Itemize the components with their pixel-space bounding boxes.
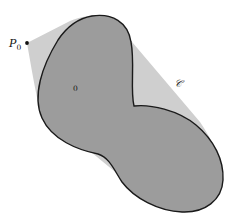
point-p0	[25, 41, 29, 45]
body-label-sub: 0	[73, 84, 78, 93]
hull-label: 𝒞𝒝	[173, 77, 184, 89]
point-label: P0	[8, 37, 21, 52]
hull-label-base: 𝒞	[173, 77, 184, 89]
convex-hull-diagram: P0 𝒝0 𝒞𝒝	[0, 0, 236, 222]
point-label-sub: 0	[16, 43, 21, 52]
body-label: 𝒝0	[73, 84, 78, 93]
body-region	[38, 15, 223, 212]
